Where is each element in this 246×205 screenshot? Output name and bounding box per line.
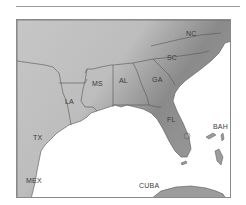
top-rule <box>16 6 240 7</box>
label-bah: BAH <box>213 123 228 130</box>
label-fl: FL <box>167 116 176 123</box>
label-al: AL <box>119 77 128 84</box>
map-frame: TX LA MS AL GA SC NC FL BAH MEX CUBA <box>16 19 231 198</box>
label-mex: MEX <box>26 177 42 184</box>
label-cuba: CUBA <box>139 182 159 189</box>
label-ms: MS <box>92 80 103 87</box>
label-ga: GA <box>152 76 163 83</box>
label-nc: NC <box>186 30 197 37</box>
label-la: LA <box>65 98 74 105</box>
land-mass <box>17 20 231 198</box>
cuba-island <box>151 186 226 198</box>
label-tx: TX <box>33 134 42 141</box>
map-graphic <box>17 20 231 198</box>
label-sc: SC <box>167 54 177 61</box>
